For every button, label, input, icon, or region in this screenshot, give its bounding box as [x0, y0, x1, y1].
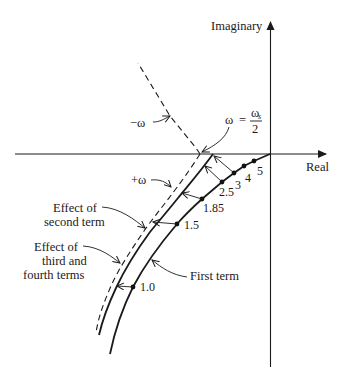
shift-arrow-1-85	[182, 193, 202, 199]
second-term-curve	[99, 154, 213, 335]
polar-plot-diagram: Imaginary Real 5 4 3 2.5 1.85 1.5 1.0 −ω…	[0, 0, 347, 378]
point-4	[242, 164, 247, 169]
third-fourth-terms-curve	[96, 154, 200, 333]
real-axis-label: Real	[306, 160, 329, 174]
point-label-5: 5	[257, 164, 263, 178]
first-term-label: First term	[190, 269, 239, 283]
effect-third-fourth-label-3: fourth terms	[23, 268, 85, 282]
effect-third-fourth-label-1: Effect of	[34, 240, 79, 254]
shift-arrow-1-0	[117, 286, 133, 287]
omega-eq-numerator-sub: s	[258, 112, 261, 121]
point-label-3: 3	[235, 178, 241, 192]
omega-eq-denominator: 2	[252, 122, 258, 136]
shift-arrow-3	[214, 156, 234, 173]
effect-second-term-leader	[102, 207, 145, 228]
effect-second-term-label-1: Effect of	[53, 201, 98, 215]
omega-eq-equals: =	[239, 113, 246, 127]
omega-eq-leader	[202, 127, 229, 152]
minus-omega-branch	[138, 63, 200, 154]
minus-omega-leader	[153, 116, 170, 122]
minus-omega-label: −ω	[130, 116, 145, 130]
imaginary-axis-label: Imaginary	[211, 19, 263, 33]
omega-eq-lhs: ω	[225, 113, 233, 127]
first-term-leader	[152, 260, 187, 277]
effect-third-fourth-label-2: third and	[42, 254, 88, 268]
plus-omega-label: +ω	[131, 173, 146, 187]
point-label-4: 4	[245, 171, 251, 185]
shift-arrow-2-5	[205, 166, 222, 182]
point-5	[252, 159, 257, 164]
point-label-1-5: 1.5	[184, 218, 199, 232]
effect-third-fourth-leader	[83, 246, 120, 263]
plus-omega-leader	[151, 180, 171, 187]
point-label-1-85: 1.85	[203, 201, 224, 215]
point-label-2-5: 2.5	[219, 185, 234, 199]
effect-second-term-label-2: second term	[44, 215, 105, 229]
point-label-1-0: 1.0	[140, 280, 155, 294]
